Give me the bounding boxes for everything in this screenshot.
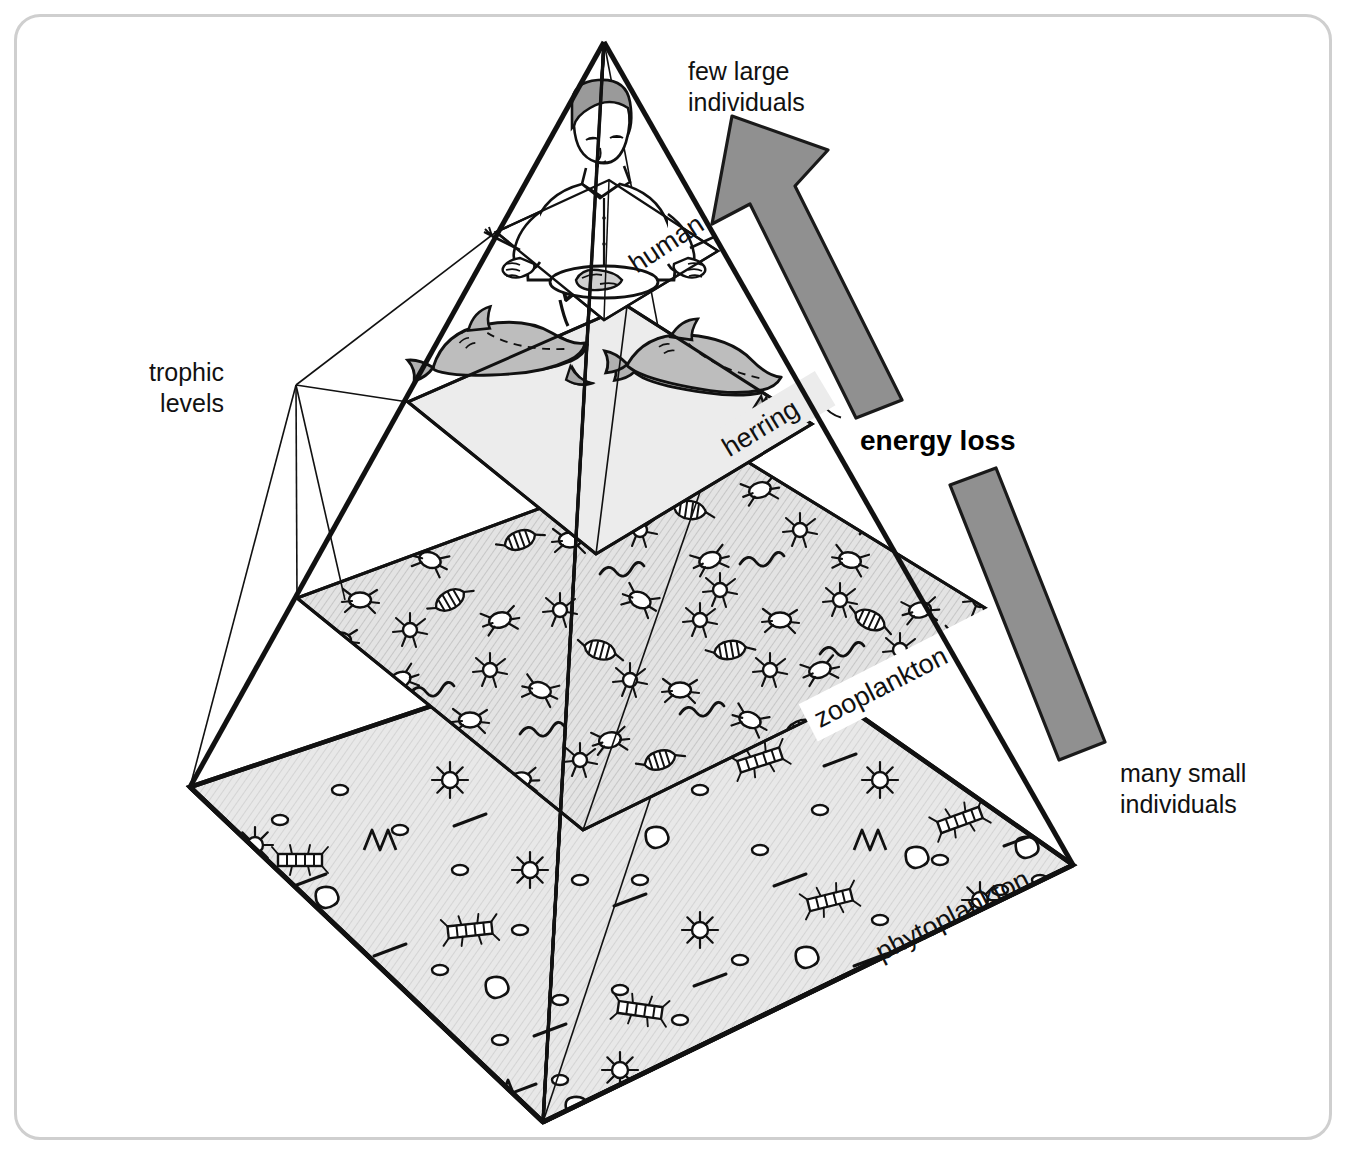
- svg-text:many small: many small: [1120, 759, 1246, 787]
- callout-few-large-individuals: few large individuals: [688, 57, 805, 116]
- svg-text:individuals: individuals: [688, 88, 805, 116]
- svg-text:levels: levels: [160, 389, 224, 417]
- svg-text:trophic: trophic: [149, 358, 224, 386]
- callout-many-small-individuals: many small individuals: [1120, 759, 1246, 818]
- pyramid-diagram: zooplankton: [0, 0, 1350, 1158]
- diagram-canvas: zooplankton: [0, 0, 1350, 1158]
- svg-text:individuals: individuals: [1120, 790, 1237, 818]
- svg-text:few large: few large: [688, 57, 789, 85]
- trophic-levels-label: trophic levels: [149, 358, 224, 417]
- svg-text:energy loss: energy loss: [860, 425, 1016, 456]
